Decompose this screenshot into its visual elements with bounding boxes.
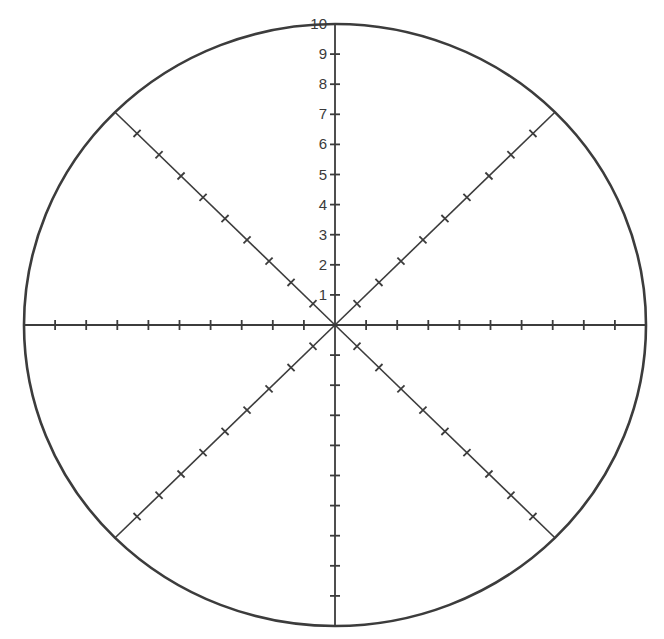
scale-labels: 12345678910 — [310, 15, 327, 303]
scale-label-8: 8 — [319, 75, 327, 92]
scale-label-2: 2 — [319, 256, 327, 273]
scale-label-5: 5 — [319, 166, 327, 183]
scale-label-4: 4 — [319, 196, 327, 213]
scale-label-1: 1 — [319, 286, 327, 303]
scale-label-6: 6 — [319, 135, 327, 152]
scale-label-3: 3 — [319, 226, 327, 243]
scale-label-7: 7 — [319, 105, 327, 122]
scale-label-9: 9 — [319, 45, 327, 62]
polar-grid-diagram: 12345678910 — [0, 0, 664, 639]
scale-label-10: 10 — [310, 15, 327, 32]
